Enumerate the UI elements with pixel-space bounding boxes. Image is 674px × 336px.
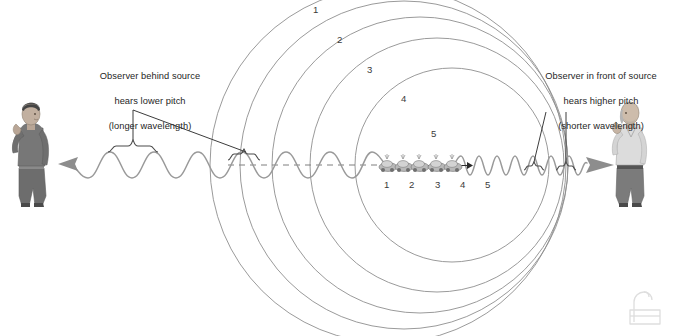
watermark-logo-icon [630,292,660,324]
doppler-diagram: 1 2 3 4 5 [0,0,674,336]
watermark-layer [0,0,674,336]
